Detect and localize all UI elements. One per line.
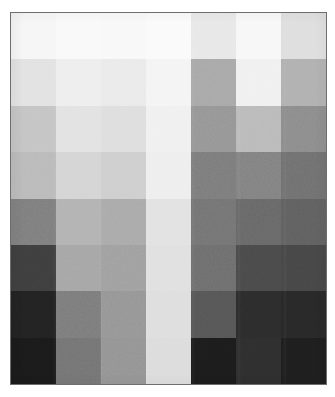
heatmap-cell — [146, 245, 191, 291]
heatmap-grid — [11, 13, 326, 384]
heatmap-cell — [146, 291, 191, 337]
heatmap-cell — [56, 13, 101, 59]
heatmap-cell — [236, 152, 281, 198]
heatmap-cell — [236, 59, 281, 105]
heatmap-cell — [11, 106, 56, 152]
heatmap-cell — [11, 291, 56, 337]
heatmap-cell — [236, 338, 281, 384]
heatmap-cell — [236, 106, 281, 152]
heatmap-cell — [56, 106, 101, 152]
heatmap-cell — [101, 152, 146, 198]
heatmap-cell — [236, 199, 281, 245]
heatmap-cell — [281, 13, 326, 59]
heatmap-cell — [191, 291, 236, 337]
heatmap-cell — [146, 199, 191, 245]
heatmap-cell — [101, 245, 146, 291]
heatmap-cell — [281, 245, 326, 291]
heatmap-cell — [11, 338, 56, 384]
heatmap-cell — [146, 59, 191, 105]
heatmap-cell — [236, 245, 281, 291]
heatmap-cell — [11, 152, 56, 198]
heatmap-cell — [191, 106, 236, 152]
heatmap-cell — [146, 338, 191, 384]
heatmap-cell — [56, 291, 101, 337]
heatmap-cell — [101, 59, 146, 105]
heatmap-cell — [56, 152, 101, 198]
figure-container — [0, 0, 335, 397]
heatmap-cell — [11, 199, 56, 245]
heatmap-plot-frame — [10, 12, 327, 385]
heatmap-cell — [281, 199, 326, 245]
heatmap-cell — [281, 106, 326, 152]
heatmap-cell — [281, 338, 326, 384]
heatmap-cell — [146, 106, 191, 152]
heatmap-cell — [191, 59, 236, 105]
heatmap-cell — [146, 152, 191, 198]
heatmap-cell — [191, 245, 236, 291]
heatmap-cell — [236, 13, 281, 59]
heatmap-cell — [101, 106, 146, 152]
heatmap-cell — [191, 13, 236, 59]
heatmap-cell — [11, 59, 56, 105]
heatmap-cell — [101, 338, 146, 384]
heatmap-cell — [101, 199, 146, 245]
heatmap-cell — [101, 291, 146, 337]
heatmap-cell — [146, 13, 191, 59]
heatmap-cell — [56, 199, 101, 245]
heatmap-cell — [281, 59, 326, 105]
heatmap-cell — [191, 199, 236, 245]
heatmap-cell — [11, 13, 56, 59]
heatmap-cell — [191, 152, 236, 198]
heatmap-cell — [101, 13, 146, 59]
heatmap-cell — [11, 245, 56, 291]
heatmap-cell — [281, 152, 326, 198]
heatmap-cell — [236, 291, 281, 337]
heatmap-cell — [56, 59, 101, 105]
heatmap-cell — [56, 338, 101, 384]
heatmap-cell — [281, 291, 326, 337]
heatmap-cell — [191, 338, 236, 384]
heatmap-cell — [56, 245, 101, 291]
